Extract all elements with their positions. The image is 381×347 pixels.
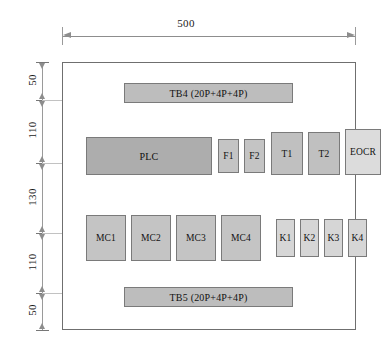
- component-f2-label: F2: [249, 151, 259, 161]
- vertical-leader-1: [42, 100, 64, 101]
- vertical-dimension-label-4: 50: [26, 290, 38, 330]
- component-k3-label: K3: [327, 233, 339, 243]
- component-k1-label: K1: [279, 233, 291, 243]
- vertical-arrow-2-up: [39, 226, 45, 232]
- width-dimension-line: [62, 36, 356, 37]
- component-mc2[interactable]: MC2: [131, 215, 171, 261]
- component-mc4-label: MC4: [231, 233, 251, 243]
- component-mc1[interactable]: MC1: [86, 215, 126, 261]
- vertical-tick-5: [36, 330, 49, 331]
- component-t1[interactable]: T1: [271, 132, 303, 175]
- vertical-leader-4: [42, 293, 64, 294]
- vertical-dimension-label-3: 110: [26, 242, 38, 282]
- vertical-dimension-label-2: 130: [26, 177, 38, 217]
- component-eocr[interactable]: EOCR: [345, 129, 381, 175]
- panel-enclosure: TB4 (20P+4P+4P) PLC F1 F2 T1 T2 EOCR MC1…: [62, 62, 356, 330]
- terminal-block-tb4[interactable]: TB4 (20P+4P+4P): [124, 83, 293, 103]
- component-plc-label: PLC: [140, 151, 159, 162]
- width-extension-right: [355, 27, 356, 45]
- terminal-block-tb4-label: TB4 (20P+4P+4P): [170, 88, 248, 99]
- component-f1[interactable]: F1: [218, 139, 239, 173]
- terminal-block-tb5-label: TB5 (20P+4P+4P): [170, 292, 248, 303]
- vertical-arrow-4-down: [39, 294, 45, 300]
- component-k2-label: K2: [303, 233, 315, 243]
- component-mc1-label: MC1: [96, 233, 116, 243]
- component-t1-label: T1: [282, 149, 293, 159]
- vertical-arrow-3-up: [39, 286, 45, 292]
- component-t2[interactable]: T2: [308, 132, 340, 175]
- component-plc[interactable]: PLC: [86, 137, 212, 175]
- component-mc2-label: MC2: [141, 233, 161, 243]
- component-k4-label: K4: [351, 233, 363, 243]
- vertical-arrow-0-up: [39, 93, 45, 99]
- vertical-arrow-4-up: [39, 323, 45, 329]
- component-k4[interactable]: K4: [348, 219, 367, 257]
- component-mc4[interactable]: MC4: [221, 215, 261, 261]
- component-f2[interactable]: F2: [244, 139, 265, 173]
- component-mc3-label: MC3: [186, 233, 206, 243]
- vertical-arrow-2-down: [39, 164, 45, 170]
- component-mc3[interactable]: MC3: [176, 215, 216, 261]
- component-k2[interactable]: K2: [300, 219, 319, 257]
- vertical-arrow-0-down: [39, 63, 45, 69]
- component-eocr-label: EOCR: [350, 147, 376, 157]
- component-f1-label: F1: [223, 151, 233, 161]
- vertical-dimension-label-0: 50: [26, 60, 38, 100]
- component-t2-label: T2: [319, 149, 330, 159]
- width-arrow-right: [347, 32, 355, 38]
- vertical-arrow-1-up: [39, 156, 45, 162]
- vertical-dimension-label-1: 110: [26, 110, 38, 150]
- component-k3[interactable]: K3: [324, 219, 343, 257]
- vertical-arrow-1-down: [39, 101, 45, 107]
- component-k1[interactable]: K1: [276, 219, 295, 257]
- vertical-arrow-3-down: [39, 234, 45, 240]
- overall-width-label: 500: [0, 17, 372, 29]
- terminal-block-tb5[interactable]: TB5 (20P+4P+4P): [124, 287, 293, 307]
- vertical-leader-2: [42, 163, 64, 164]
- width-arrow-left: [63, 32, 71, 38]
- vertical-leader-3: [42, 233, 64, 234]
